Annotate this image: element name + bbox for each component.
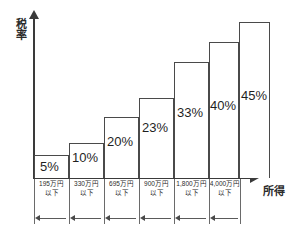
bar-bracket-5 — [174, 62, 209, 178]
bar-value-label-2: 10% — [72, 150, 98, 165]
bracket-label-3: 695万円 以下 — [104, 179, 139, 224]
bracket-divider-4 — [174, 179, 175, 224]
y-axis-line — [33, 18, 35, 178]
bracket-text-3: 695万円 以下 — [104, 179, 139, 197]
bracket-divider-6 — [240, 179, 241, 224]
bracket-amount-6: 4,000万円 — [209, 179, 241, 188]
bracket-text-4: 900万円 以下 — [139, 179, 174, 197]
bracket-rule-5 — [178, 218, 206, 219]
bracket-arrow-icon-3 — [105, 215, 110, 221]
bracket-arrow-icon-2 — [70, 215, 75, 221]
bracket-text-5: 1,800万円 以下 — [174, 179, 209, 197]
bar-value-label-1: 5% — [40, 159, 59, 174]
bracket-label-4: 900万円 以下 — [139, 179, 174, 224]
bar-value-label-6: 40% — [210, 98, 236, 113]
bracket-label-1: 195万円 以下 — [34, 179, 69, 224]
y-axis-title: 税率 — [11, 18, 27, 40]
bracket-amount-4: 900万円 — [139, 179, 174, 188]
bracket-rule-1 — [38, 218, 66, 219]
bracket-arrow-icon-1 — [35, 215, 40, 221]
bracket-divider-5 — [209, 179, 210, 224]
bar-value-label-4: 23% — [142, 120, 168, 135]
bracket-text-6: 4,000万円 以下 — [209, 179, 241, 197]
bracket-suffix-2: 以下 — [69, 188, 104, 197]
bracket-text-1: 195万円 以下 — [34, 179, 69, 197]
bracket-amount-2: 330万円 — [69, 179, 104, 188]
bracket-suffix-6: 以下 — [209, 188, 241, 197]
bar-bracket-4 — [139, 98, 174, 178]
bracket-label-2: 330万円 以下 — [69, 179, 104, 224]
bracket-rule-6 — [213, 218, 238, 219]
bar-value-label-7: 45% — [241, 88, 267, 103]
bracket-suffix-3: 以下 — [104, 188, 139, 197]
bracket-amount-5: 1,800万円 — [174, 179, 209, 188]
bracket-suffix-4: 以下 — [139, 188, 174, 197]
bracket-label-5: 1,800万円 以下 — [174, 179, 209, 224]
bar-value-label-5: 33% — [177, 105, 203, 120]
bracket-divider-0 — [34, 179, 35, 224]
bracket-amount-3: 695万円 — [104, 179, 139, 188]
bracket-rule-4 — [143, 218, 171, 219]
y-axis-arrowhead-icon — [29, 10, 39, 19]
x-axis-title: 所得 — [263, 182, 285, 198]
bracket-arrow-icon-6 — [210, 215, 215, 221]
bracket-divider-2 — [104, 179, 105, 224]
bracket-rule-3 — [108, 218, 136, 219]
bracket-divider-1 — [69, 179, 70, 224]
bracket-arrow-icon-5 — [175, 215, 180, 221]
bracket-suffix-5: 以下 — [174, 188, 209, 197]
bracket-amount-1: 195万円 — [34, 179, 69, 188]
bracket-rule-2 — [73, 218, 101, 219]
bracket-label-6: 4,000万円 以下 — [209, 179, 241, 224]
bracket-divider-3 — [139, 179, 140, 224]
bracket-arrow-icon-4 — [140, 215, 145, 221]
bar-value-label-3: 20% — [107, 134, 133, 149]
bracket-text-2: 330万円 以下 — [69, 179, 104, 197]
bracket-suffix-1: 以下 — [34, 188, 69, 197]
tax-rate-bar-chart: 税率 所得 5% 10% 20% 23% 33% 40% 45% 195万円 以… — [0, 0, 300, 230]
